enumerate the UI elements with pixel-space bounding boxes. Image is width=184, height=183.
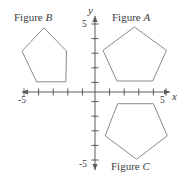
figure-c-label-letter: C [142,160,149,172]
y-tick-label-neg5: -5 [79,160,87,170]
pentagon-figure-b [22,28,67,82]
figure-a-label-letter: A [143,11,150,23]
pentagon-figure-a [103,27,167,81]
coordinate-plane-figure: Figure A Figure B Figure C x y -5 5 5 -5 [0,0,184,183]
x-tick-label-neg5: -5 [18,96,26,106]
figure-b-label-letter: B [45,11,52,23]
figure-c-label-prefix: Figure [111,160,142,172]
figure-a-label-prefix: Figure [112,11,143,23]
figure-b-label-prefix: Figure [14,11,45,23]
y-axis-label: y [88,5,93,16]
y-axis-group [91,16,98,170]
y-axis-arrow-down [92,164,97,170]
x-axis-arrow-right [164,89,170,94]
figure-c-label: Figure C [111,161,150,172]
figure-b-label: Figure B [14,12,52,23]
x-axis-group [22,88,170,95]
y-axis-arrow-up [92,16,97,22]
x-axis-arrow-left [22,89,28,94]
pentagon-figure-c [105,104,167,160]
y-tick-label-pos5: 5 [82,20,87,30]
x-axis-label: x [172,91,177,102]
plot-canvas [0,0,184,183]
figure-a-label: Figure A [112,12,150,23]
x-tick-label-pos5: 5 [160,96,165,106]
